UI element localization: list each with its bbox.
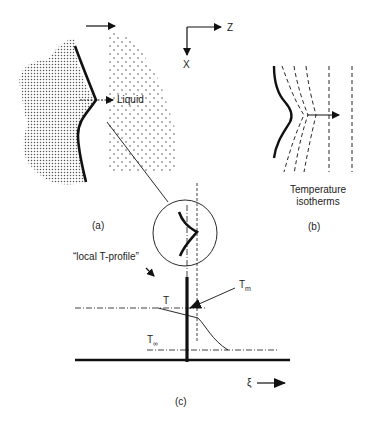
coordinate-axes (187, 27, 221, 55)
xi-label: ξ (247, 378, 251, 388)
isotherms-caption-line2: isotherms (278, 197, 358, 207)
magnifier (153, 183, 217, 360)
panel-c-label: (c) (175, 397, 187, 407)
tinf-label: T∞ (147, 335, 158, 347)
panel-a-label: (a) (92, 221, 104, 231)
z-axis-label: Z (227, 23, 233, 33)
tm-label-sub: m (245, 285, 251, 292)
tm-label: Tm (239, 280, 251, 292)
panel-b-label: (b) (308, 222, 320, 232)
t-label: T (163, 296, 169, 306)
isotherm-panel (274, 66, 352, 174)
local-t-profile-label: “local T-profile” (73, 252, 139, 262)
local-t-profile (75, 268, 290, 383)
isotherms-caption-line1: Temperature (278, 185, 358, 195)
solid-region (19, 38, 95, 184)
liquid-label: Liquid (117, 95, 144, 105)
tinf-label-sub: ∞ (153, 340, 158, 347)
x-axis-label: X (183, 60, 190, 70)
